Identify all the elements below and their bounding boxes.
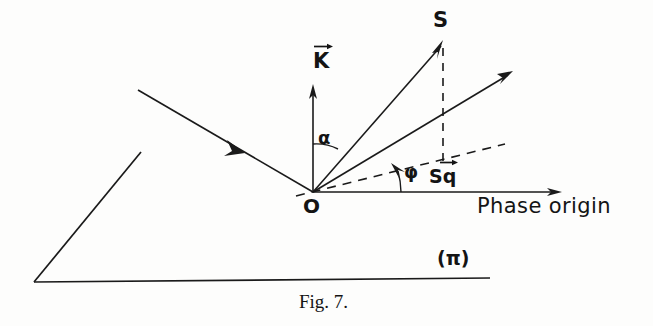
- plane-pi-outline: [34, 152, 490, 282]
- figure-container: S K α φ Sq O Phase origin (π) Fig. 7.: [0, 0, 653, 326]
- angle-phi-arrowhead-icon: [391, 163, 405, 178]
- label-projection-sq: Sq: [429, 160, 456, 186]
- figure-caption: Fig. 7.: [299, 292, 348, 311]
- label-angle-alpha: α: [318, 129, 330, 147]
- vector-overarrow-icon: [314, 42, 333, 51]
- plane-edge-left: [34, 152, 141, 282]
- vector-S-line: [313, 46, 441, 192]
- label-plane-pi: (π): [437, 249, 469, 268]
- label-vector-S: S: [433, 10, 448, 31]
- vector-S: [313, 40, 443, 192]
- label-vector-K: K: [313, 43, 329, 72]
- incident-ray: [138, 90, 313, 192]
- vector-K: [309, 84, 317, 192]
- label-angle-phi: φ: [404, 163, 418, 181]
- label-phase-origin-axis: Phase origin: [477, 196, 611, 217]
- vector-S-arrowhead-icon: [432, 40, 443, 59]
- plane-edge-bottom: [34, 278, 490, 282]
- angle-phi-arc-group: [391, 163, 405, 192]
- scattered-ray-arrowhead-icon: [497, 71, 513, 84]
- vector-overarrow-icon: [440, 158, 458, 167]
- label-origin: O: [303, 196, 320, 216]
- incident-ray-line: [138, 90, 313, 192]
